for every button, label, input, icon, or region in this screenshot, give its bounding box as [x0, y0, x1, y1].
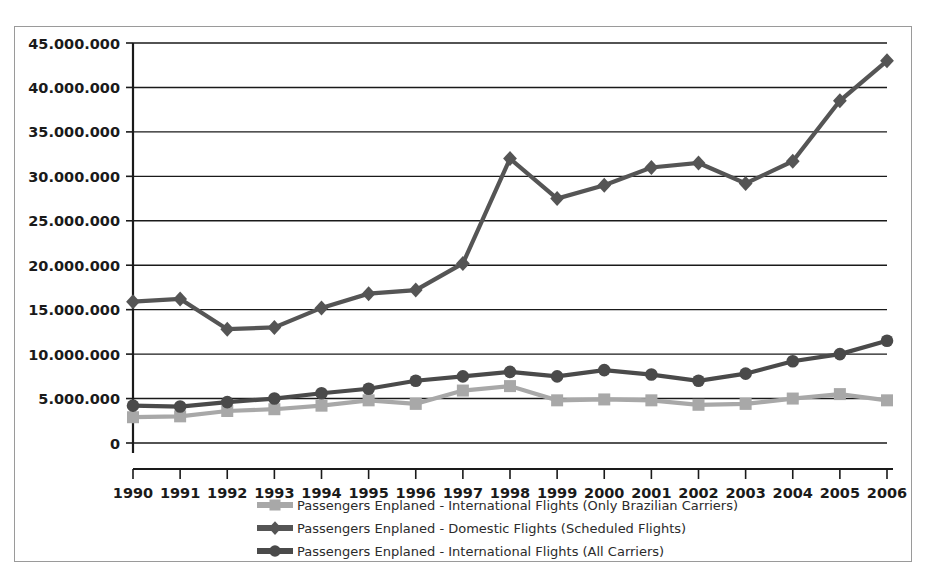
line-chart: 05.000.00010.000.00015.000.00020.000.000… [15, 27, 911, 561]
y-axis-tick-label: 5.000.000 [38, 391, 120, 407]
y-axis-tick-label: 40.000.000 [28, 80, 120, 96]
data-point-marker-diamond [456, 256, 470, 271]
x-axis-tick-label: 2006 [867, 485, 907, 501]
data-point-marker-square [457, 385, 469, 397]
data-point-marker-circle [221, 396, 234, 409]
y-axis-tick-label: 0 [110, 436, 120, 452]
x-axis-tick-label: 1993 [254, 485, 294, 501]
data-point-marker-square [881, 394, 893, 406]
data-point-marker-square [410, 398, 422, 410]
data-point-marker-diamond [739, 176, 753, 191]
data-point-marker-square [268, 403, 280, 415]
data-point-marker-circle [598, 364, 611, 377]
legend-label: Passengers Enplaned - International Flig… [297, 544, 664, 559]
data-point-marker-circle [504, 366, 517, 379]
data-point-marker-diamond [644, 160, 658, 175]
data-point-marker-circle [645, 368, 658, 381]
y-axis-tick-label: 25.000.000 [28, 213, 120, 229]
x-axis-tick-label: 1991 [160, 485, 200, 501]
data-point-marker-diamond [692, 156, 706, 171]
chart-legend: Passengers Enplaned - International Flig… [257, 498, 738, 559]
x-axis-tick-label: 2004 [773, 485, 813, 501]
data-point-marker-circle [269, 545, 281, 557]
data-point-marker-diamond [126, 294, 140, 309]
data-point-marker-square [787, 393, 799, 405]
data-point-marker-square [127, 411, 139, 423]
y-axis-tick-label: 10.000.000 [28, 347, 120, 363]
data-point-marker-square [693, 399, 705, 411]
data-point-marker-square [316, 400, 328, 412]
x-axis: 1990199119921993199419951996199719981999… [113, 469, 907, 501]
data-point-marker-diamond [267, 320, 281, 335]
data-point-marker-circle [457, 370, 470, 383]
data-point-marker-circle [739, 367, 752, 380]
data-point-marker-circle [315, 387, 328, 400]
data-point-marker-circle [881, 334, 894, 347]
series-line-path [133, 61, 887, 329]
x-axis-tick-label: 2005 [820, 485, 860, 501]
x-axis-tick-label: 1992 [207, 485, 247, 501]
data-point-marker-circle [786, 355, 799, 368]
y-axis-tick-label: 45.000.000 [28, 36, 120, 52]
data-point-marker-diamond [409, 283, 423, 298]
series-2 [126, 53, 894, 336]
x-axis-tick-label: 1990 [113, 485, 153, 501]
data-point-marker-circle [127, 399, 140, 412]
data-point-marker-square [834, 388, 846, 400]
legend-item[interactable]: Passengers Enplaned - International Flig… [257, 498, 738, 513]
y-axis-tick-label: 15.000.000 [28, 302, 120, 318]
series-plot-area [126, 53, 894, 423]
data-point-marker-circle [174, 400, 187, 413]
data-point-marker-square [270, 500, 281, 511]
data-point-marker-diamond [362, 286, 376, 301]
y-axis: 05.000.00010.000.00015.000.00020.000.000… [28, 36, 133, 454]
data-point-marker-square [551, 394, 563, 406]
y-axis-tick-label: 20.000.000 [28, 258, 120, 274]
legend-item[interactable]: Passengers Enplaned - Domestic Flights (… [257, 521, 686, 536]
legend-item[interactable]: Passengers Enplaned - International Flig… [257, 544, 664, 559]
data-point-marker-circle [409, 374, 422, 387]
data-point-marker-circle [362, 382, 375, 395]
data-point-marker-circle [551, 370, 564, 383]
data-point-marker-diamond [269, 521, 282, 535]
data-point-marker-square [598, 393, 610, 405]
data-point-marker-diamond [597, 178, 611, 193]
data-point-marker-diamond [315, 300, 329, 315]
chart-frame: 05.000.00010.000.00015.000.00020.000.000… [14, 26, 912, 562]
y-axis-tick-label: 35.000.000 [28, 124, 120, 140]
data-point-marker-square [645, 394, 657, 406]
data-point-marker-circle [834, 348, 847, 361]
data-point-marker-square [504, 380, 516, 392]
data-point-marker-circle [268, 392, 281, 405]
legend-label: Passengers Enplaned - International Flig… [297, 498, 738, 513]
legend-label: Passengers Enplaned - Domestic Flights (… [297, 521, 686, 536]
data-point-marker-square [740, 398, 752, 410]
data-point-marker-square [363, 394, 375, 406]
y-axis-tick-label: 30.000.000 [28, 169, 120, 185]
data-point-marker-circle [692, 374, 705, 387]
